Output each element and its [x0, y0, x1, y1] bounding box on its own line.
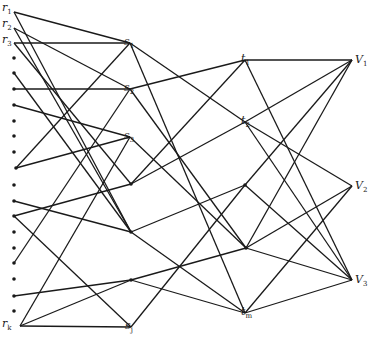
node-r7 — [12, 103, 16, 107]
node-s4 — [129, 182, 133, 186]
edge-rk-sj — [20, 326, 131, 327]
node-r15 — [12, 230, 16, 234]
node-r20 — [12, 309, 16, 313]
label-r2: r2 — [2, 18, 12, 32]
label-rk: rk — [2, 318, 12, 332]
edge-t4-V1 — [246, 60, 352, 248]
node-t3 — [243, 183, 247, 187]
label-V1: V1 — [355, 54, 367, 68]
edge-rk-s6 — [20, 280, 131, 326]
node-r9 — [12, 134, 16, 138]
edges — [14, 12, 352, 327]
edge-r11-s3 — [16, 137, 130, 168]
label-s2: s2 — [124, 82, 134, 96]
node-r5 — [12, 71, 16, 75]
label-tm: tm — [241, 306, 252, 320]
edge-s4-t2 — [131, 122, 245, 184]
node-r10 — [12, 150, 16, 154]
edge-t2-V1 — [245, 60, 352, 122]
label-V3: V3 — [355, 274, 367, 288]
edge-s2-t1 — [130, 60, 245, 89]
node-r13 — [12, 199, 16, 203]
node-s6 — [129, 278, 133, 282]
label-s1: s1 — [124, 36, 134, 50]
edge-t3-V3 — [245, 185, 352, 280]
node-r17 — [12, 261, 16, 265]
edge-tm-V3 — [245, 280, 352, 313]
edge-r19-s6 — [14, 280, 131, 296]
edge-sj-t3 — [131, 185, 245, 327]
node-t4 — [244, 246, 248, 250]
label-t1: t1 — [241, 53, 250, 67]
node-r19 — [12, 294, 16, 298]
node-r6 — [12, 87, 16, 91]
label-t2: t2 — [241, 115, 250, 129]
label-sj: sj — [125, 320, 133, 334]
layered-graph — [0, 0, 373, 345]
node-r8 — [12, 119, 16, 123]
edge-t4-V2 — [246, 186, 352, 248]
edge-r1-s1 — [14, 12, 130, 43]
edge-t4-V3 — [246, 248, 352, 280]
edge-t1-V3 — [245, 60, 352, 280]
label-V2: V2 — [355, 180, 367, 194]
edge-s6-tm — [131, 280, 245, 313]
edge-s2-t4 — [130, 89, 246, 248]
edge-tm-V2 — [245, 186, 352, 313]
edge-rk-s3 — [20, 137, 130, 326]
node-r12 — [12, 183, 16, 187]
label-r3: r3 — [2, 34, 12, 48]
edge-r14-sj — [14, 216, 131, 327]
node-r18 — [12, 277, 16, 281]
edge-r1-s5 — [14, 12, 131, 232]
edge-s4-t1 — [131, 60, 245, 184]
node-r16 — [12, 246, 16, 250]
node-r14 — [12, 214, 16, 218]
node-s5 — [129, 230, 133, 234]
node-r4 — [12, 56, 16, 60]
edge-r13-s5 — [14, 201, 131, 232]
label-r1: r1 — [2, 2, 12, 16]
edge-t2-V3 — [245, 122, 352, 280]
edge-t3-V1 — [245, 60, 352, 185]
label-s3: s3 — [124, 130, 134, 144]
edge-r7-s3 — [14, 105, 130, 137]
node-r11 — [14, 166, 18, 170]
